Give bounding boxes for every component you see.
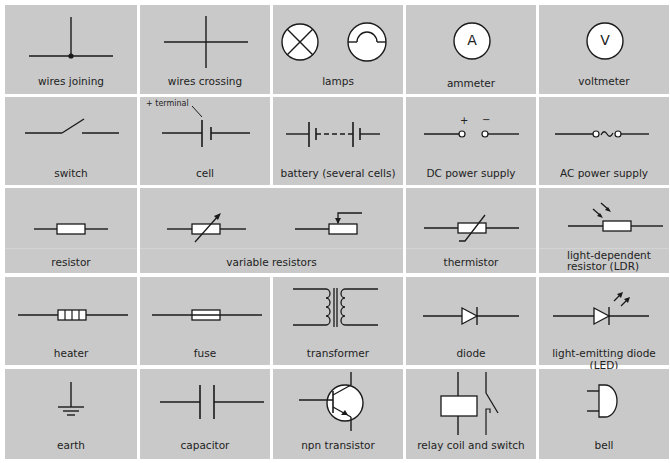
label-battery: battery (several cells) bbox=[273, 167, 403, 179]
label-switch: switch bbox=[5, 167, 137, 179]
label-heater: heater bbox=[5, 347, 137, 359]
cell-lamps: lamps bbox=[273, 5, 403, 94]
label-npn-transistor: npn transistor bbox=[273, 439, 403, 451]
cell-ac-power-supply: AC power supply bbox=[539, 97, 669, 185]
label-variable-resistors: variable resistors bbox=[140, 256, 403, 268]
label-relay: relay coil and switch bbox=[406, 439, 536, 451]
cell-earth: earth bbox=[5, 369, 137, 459]
label-thermistor: thermistor bbox=[406, 256, 536, 268]
cell-bell: bell bbox=[539, 369, 669, 459]
cell-wires-crossing: wires crossing bbox=[140, 5, 270, 94]
label-capacitor: capacitor bbox=[140, 439, 270, 451]
cell-cell: + terminal cell bbox=[140, 97, 270, 185]
cell-transformer: transformer bbox=[273, 277, 403, 365]
cell-diode: diode bbox=[406, 277, 536, 365]
label-lamps: lamps bbox=[273, 75, 403, 87]
cell-relay: relay coil and switch bbox=[406, 369, 536, 459]
label-bell: bell bbox=[539, 439, 669, 451]
cell-npn-transistor: npn transistor bbox=[273, 369, 403, 459]
cell-fuse: fuse bbox=[140, 277, 270, 365]
cell-dc-power-supply: + − DC power supply bbox=[406, 97, 536, 185]
cell-ldr: light-dependent resistor (LDR) bbox=[539, 188, 669, 273]
label-ac-power-supply: AC power supply bbox=[539, 167, 669, 179]
label-wires-joining: wires joining bbox=[5, 75, 137, 87]
cell-wires-joining: wires joining bbox=[5, 5, 137, 94]
label-ldr-line2: resistor (LDR) bbox=[567, 260, 669, 272]
circuit-symbols-grid: wires joining wires crossing lamps A amm… bbox=[5, 5, 669, 459]
label-resistor: resistor bbox=[5, 256, 137, 268]
label-wires-crossing: wires crossing bbox=[140, 75, 270, 87]
cell-thermistor: thermistor bbox=[406, 188, 536, 273]
cell-voltmeter: V voltmeter bbox=[539, 5, 669, 94]
cell-capacitor: capacitor bbox=[140, 369, 270, 459]
cell-variable-resistors: variable resistors bbox=[140, 188, 403, 273]
cell-resistor: resistor bbox=[5, 188, 137, 273]
cell-battery: battery (several cells) bbox=[273, 97, 403, 185]
label-transformer: transformer bbox=[273, 347, 403, 359]
label-cell: cell bbox=[140, 167, 270, 179]
cell-led: light-emitting diode (LED) bbox=[539, 277, 669, 365]
cell-heater: heater bbox=[5, 277, 137, 365]
label-voltmeter: voltmeter bbox=[539, 75, 669, 87]
ammeter-glyph: A bbox=[406, 34, 538, 46]
label-earth: earth bbox=[5, 439, 137, 451]
label-fuse: fuse bbox=[140, 347, 270, 359]
label-led: light-emitting diode (LED) bbox=[539, 347, 669, 371]
cell-ammeter: A ammeter bbox=[406, 5, 536, 94]
label-diode: diode bbox=[406, 347, 536, 359]
cell-switch: switch bbox=[5, 97, 137, 185]
label-dc-power-supply: DC power supply bbox=[406, 167, 536, 179]
voltmeter-glyph: V bbox=[539, 34, 670, 46]
label-ammeter: ammeter bbox=[406, 77, 536, 89]
